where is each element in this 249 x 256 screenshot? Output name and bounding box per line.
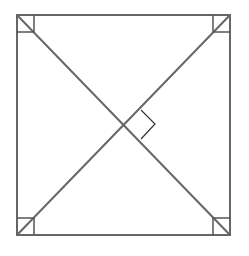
square-diagonals-diagram bbox=[0, 0, 249, 256]
right-angle-marker-center bbox=[141, 110, 155, 139]
